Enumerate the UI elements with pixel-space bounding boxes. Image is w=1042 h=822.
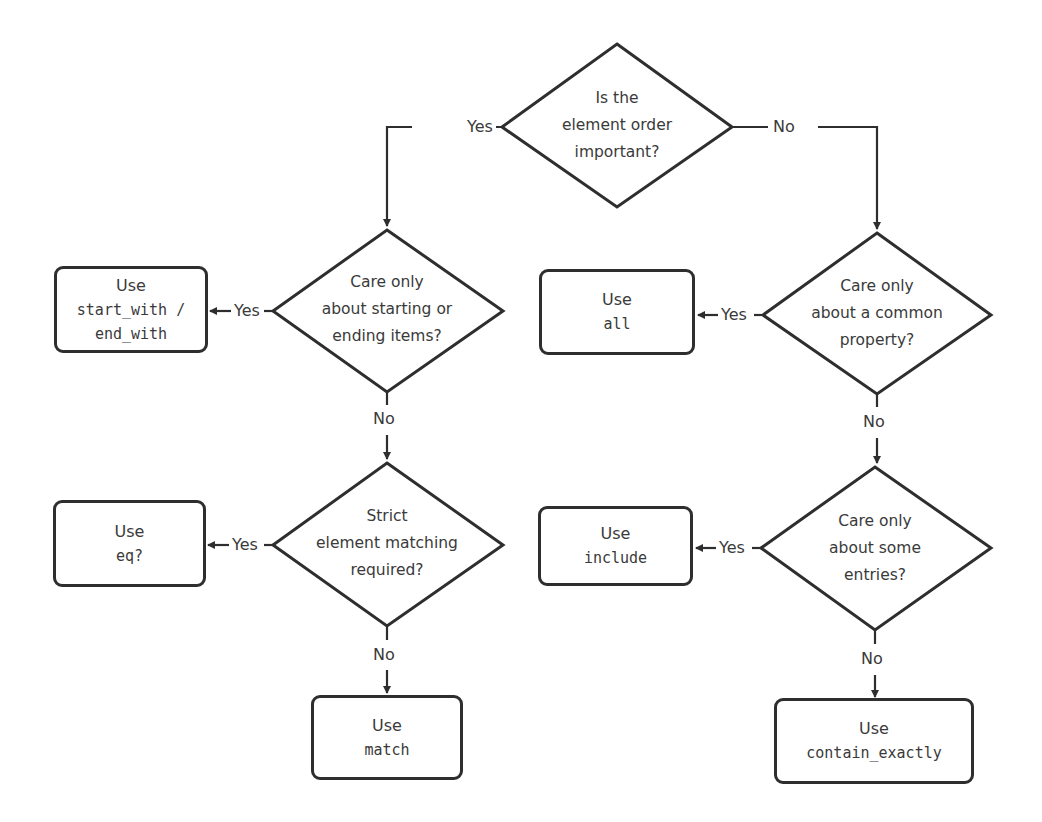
result-use-label: Use <box>115 520 145 544</box>
question-line: ending items? <box>297 323 477 350</box>
question-line: Care only <box>297 269 477 296</box>
result-method: all <box>603 312 630 336</box>
result-method: end_with <box>95 322 167 346</box>
result-method: contain_exactly <box>806 741 941 765</box>
question-line: about a common <box>787 300 967 327</box>
edge-label-order-no: No <box>770 117 798 137</box>
edge-label-strict-no: No <box>370 645 398 665</box>
result-match: Use match <box>311 695 463 780</box>
question-line: Is the <box>532 85 702 112</box>
result-all: Use all <box>539 269 695 355</box>
question-line: entries? <box>785 562 965 589</box>
result-use-label: Use <box>859 717 889 741</box>
question-line: element order <box>532 112 702 139</box>
question-line: required? <box>297 557 477 584</box>
question-element-order: Is the element order important? <box>532 85 702 166</box>
question-starting-ending: Care only about starting or ending items… <box>297 269 477 350</box>
result-method: include <box>584 546 647 570</box>
result-use-label: Use <box>372 714 402 738</box>
result-start-with-end-with: Use start_with / end_with <box>54 266 208 353</box>
question-line: about starting or <box>297 296 477 323</box>
edge-label-start-end-yes: Yes <box>231 301 263 321</box>
result-use-label: Use <box>602 288 632 312</box>
question-common-property: Care only about a common property? <box>787 273 967 354</box>
edge-label-strict-yes: Yes <box>229 535 261 555</box>
result-eq: Use eq? <box>53 500 206 587</box>
question-some-entries: Care only about some entries? <box>785 508 965 589</box>
question-line: Strict <box>297 503 477 530</box>
question-line: important? <box>532 139 702 166</box>
result-contain-exactly: Use contain_exactly <box>774 698 974 784</box>
question-strict-matching: Strict element matching required? <box>297 503 477 584</box>
result-method: match <box>364 738 409 762</box>
question-line: about some <box>785 535 965 562</box>
edge-label-start-end-no: No <box>370 409 398 429</box>
edge-label-some-no: No <box>858 649 886 669</box>
question-line: element matching <box>297 530 477 557</box>
question-line: property? <box>787 327 967 354</box>
question-line: Care only <box>785 508 965 535</box>
question-line: Care only <box>787 273 967 300</box>
edge-label-common-yes: Yes <box>718 305 750 325</box>
result-use-label: Use <box>601 522 631 546</box>
edge-label-some-yes: Yes <box>716 538 748 558</box>
result-use-label: Use <box>116 274 146 298</box>
result-method: eq? <box>116 544 143 568</box>
result-include: Use include <box>538 506 693 586</box>
edge-label-order-yes: Yes <box>464 117 496 137</box>
edge-label-common-no: No <box>860 412 888 432</box>
result-method: start_with / <box>77 298 185 322</box>
